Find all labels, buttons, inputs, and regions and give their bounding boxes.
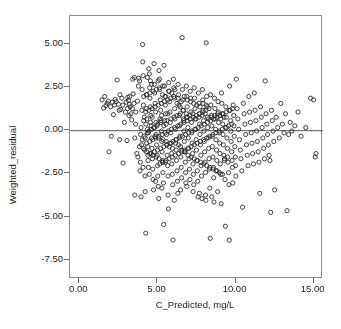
y-tick-label: 2.50 <box>45 81 64 91</box>
x-tick-label: 5.00 <box>147 283 166 294</box>
x-tick-label: 15.00 <box>301 283 325 294</box>
y-tick-label: 0.00 <box>45 124 64 134</box>
y-tick-label: 5.00 <box>45 38 64 48</box>
x-tick-label: 0.00 <box>69 283 88 294</box>
y-tick-label: -5.00 <box>41 211 63 221</box>
scatter-points-canvas <box>70 16 323 279</box>
y-axis-title: Weighted_residual <box>7 125 18 204</box>
scatter-plot-figure: 5.002.500.00-2.50-5.00-7.50 Weighted_res… <box>0 0 341 329</box>
plot-area <box>69 15 322 278</box>
x-tick-label: 10.00 <box>223 283 247 294</box>
y-tick-label: -7.50 <box>41 254 63 264</box>
x-axis-title: C_Predicted, mg/L <box>156 299 235 310</box>
y-tick-label: -2.50 <box>41 167 63 177</box>
